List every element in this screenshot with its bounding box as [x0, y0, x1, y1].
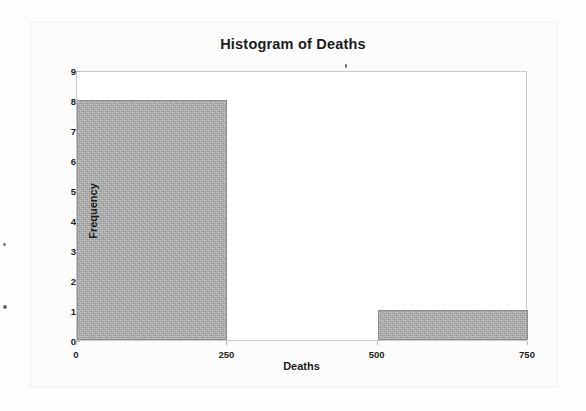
y-axis-tick-label: 2: [60, 276, 76, 287]
histogram-screenshot: Histogram of Deaths 0123456789 025050075…: [0, 0, 586, 411]
scan-speck-icon: [3, 243, 6, 246]
x-axis-tick-mark: [377, 341, 378, 345]
y-axis-tick-mark: [76, 251, 80, 252]
scan-speck-icon: [3, 305, 7, 309]
histogram-bar: [378, 310, 528, 340]
y-axis-tick-label: 7: [60, 126, 76, 137]
y-axis-tick-mark: [76, 101, 80, 102]
y-axis-tick-label: 0: [60, 336, 76, 347]
x-axis-tick-mark: [226, 341, 227, 345]
plot-frame: [76, 71, 527, 341]
y-axis-tick-mark: [76, 191, 80, 192]
scan-speck-icon: [345, 64, 347, 68]
y-axis-tick-label: 8: [60, 96, 76, 107]
histogram-bar: [77, 100, 227, 340]
y-axis-tick-marks: [76, 71, 81, 341]
y-axis-tick-label: 6: [60, 156, 76, 167]
x-axis-title: Deaths: [76, 360, 527, 372]
y-axis-tick-mark: [76, 71, 80, 72]
y-axis-title-wrapper: Frequency: [48, 0, 49, 411]
y-axis-tick-label: 5: [60, 186, 76, 197]
y-axis-tick-mark: [76, 161, 80, 162]
y-axis-tick-label: 1: [60, 306, 76, 317]
y-axis-tick-mark: [76, 221, 80, 222]
x-axis-tick-label: 500: [369, 349, 385, 360]
y-axis-tick-mark: [76, 311, 80, 312]
plot-area: [77, 72, 526, 340]
x-axis-tick-mark: [76, 341, 77, 345]
y-axis-tick-mark: [76, 131, 80, 132]
y-axis-title: Frequency: [87, 146, 99, 276]
y-axis-tick-labels: 0123456789: [56, 71, 76, 341]
x-axis-tick-mark: [527, 341, 528, 345]
y-axis-tick-label: 3: [60, 246, 76, 257]
x-axis-tick-label: 250: [218, 349, 234, 360]
y-axis-tick-mark: [76, 281, 80, 282]
x-axis-tick-label: 750: [519, 349, 535, 360]
y-axis-tick-label: 4: [60, 216, 76, 227]
chart-title: Histogram of Deaths: [0, 36, 586, 52]
y-axis-tick-label: 9: [60, 66, 76, 77]
x-axis-tick-label: 0: [73, 349, 78, 360]
